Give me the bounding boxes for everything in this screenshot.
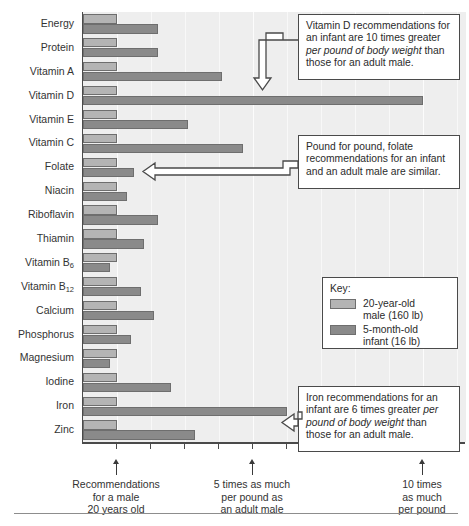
bar-vitamin-e-adult [83, 110, 117, 119]
category-label: Thiamin [0, 233, 74, 244]
bar-niacin-adult [83, 182, 117, 191]
bar-vitamin-b12-infant [83, 287, 141, 296]
category-label: Magnesium [0, 352, 74, 363]
bar-vitamin-c-adult [83, 134, 117, 143]
bar-riboflavin-adult [83, 205, 117, 214]
bar-zinc-infant [83, 430, 195, 439]
callout-text: Iron recommendations for an infant are 6… [306, 392, 438, 415]
bar-protein-infant [83, 48, 158, 57]
legend-swatch-light [330, 299, 356, 309]
axis-pointer-1 [116, 463, 117, 475]
category-label: Vitamin C [0, 137, 74, 148]
x-tick-3 [184, 443, 185, 449]
bar-thiamin-adult [83, 229, 117, 238]
bar-vitamin-d-adult [83, 86, 117, 95]
legend-title: Key: [330, 283, 450, 295]
category-axis-labels: EnergyProteinVitamin AVitamin DVitamin E… [0, 12, 78, 442]
bar-iron-infant [83, 407, 287, 416]
bar-vitamin-b6-infant [83, 263, 110, 272]
bar-iodine-adult [83, 373, 117, 382]
bar-energy-adult [83, 14, 117, 23]
nutrient-recommendations-chart: EnergyProteinVitamin AVitamin DVitamin E… [0, 0, 469, 526]
bar-folate-infant [83, 168, 134, 177]
category-label: Zinc [0, 424, 74, 435]
callout-text: Vitamin D recommendations for an infant … [306, 20, 450, 43]
axis-note-1: Recommendations for a male 20 years old [41, 478, 191, 516]
bar-riboflavin-infant [83, 215, 158, 224]
category-label: Energy [0, 18, 74, 29]
legend-entry: 20-year-old male (160 lb) [330, 298, 450, 321]
bar-vitamin-b12-adult [83, 277, 117, 286]
category-label: Iron [0, 400, 74, 411]
legend-entry: 5-month-old infant (16 lb) [330, 324, 450, 347]
bar-magnesium-infant [83, 359, 110, 368]
category-label: Vitamin E [0, 114, 74, 125]
bar-vitamin-b6-adult [83, 253, 117, 262]
bar-vitamin-d-infant [83, 96, 423, 105]
category-label: Vitamin B12 [0, 281, 74, 293]
category-label: Niacin [0, 185, 74, 196]
axis-note-10: 10 times as much per pound [347, 478, 469, 516]
bar-phosphorus-infant [83, 335, 131, 344]
bar-vitamin-a-infant [83, 72, 222, 81]
category-label: Folate [0, 161, 74, 172]
bar-vitamin-a-adult [83, 62, 117, 71]
bar-vitamin-c-infant [83, 144, 243, 153]
legend-key-box: Key: 20-year-old male (160 lb)5-month-ol… [322, 277, 458, 349]
bar-folate-adult [83, 158, 117, 167]
x-tick-5 [252, 443, 253, 449]
bar-iodine-infant [83, 383, 171, 392]
callout-iron: Iron recommendations for an infant are 6… [298, 386, 460, 452]
axis-pointer-10 [422, 463, 423, 475]
bar-vitamin-e-infant [83, 120, 188, 129]
x-tick-6 [286, 443, 287, 449]
legend-entry-label: 20-year-old male (160 lb) [363, 298, 423, 321]
x-tick-4 [218, 443, 219, 449]
bar-niacin-infant [83, 192, 127, 201]
axis-pointer-5 [252, 463, 253, 475]
callout-emphasis: per pound of body weight [306, 45, 422, 56]
category-label: Vitamin B6 [0, 257, 74, 269]
axis-note-5: 5 times as much per pound as an adult ma… [177, 478, 327, 516]
bar-magnesium-adult [83, 349, 117, 358]
bottom-divider-rule [14, 513, 458, 514]
category-label: Vitamin A [0, 66, 74, 77]
category-label: Iodine [0, 376, 74, 387]
bar-thiamin-infant [83, 239, 144, 248]
bar-calcium-adult [83, 301, 117, 310]
bar-iron-adult [83, 397, 117, 406]
legend-swatch-dark [330, 325, 356, 335]
category-label: Phosphorus [0, 329, 74, 340]
bar-zinc-adult [83, 420, 117, 429]
callout-folate: Pound for pound, folate recommendations … [298, 135, 460, 189]
bar-phosphorus-adult [83, 325, 117, 334]
legend-entries: 20-year-old male (160 lb)5-month-old inf… [330, 298, 450, 347]
callout-text: Pound for pound, folate recommendations … [306, 141, 445, 177]
callout-vitamin-d: Vitamin D recommendations for an infant … [298, 14, 460, 80]
x-tick-2 [150, 443, 151, 449]
x-tick-1 [116, 443, 117, 449]
bar-energy-infant [83, 24, 158, 33]
category-label: Riboflavin [0, 209, 74, 220]
category-label: Protein [0, 42, 74, 53]
bar-protein-adult [83, 38, 117, 47]
legend-entry-label: 5-month-old infant (16 lb) [363, 324, 420, 347]
category-label: Vitamin D [0, 90, 74, 101]
category-label: Calcium [0, 305, 74, 316]
bar-calcium-infant [83, 311, 154, 320]
